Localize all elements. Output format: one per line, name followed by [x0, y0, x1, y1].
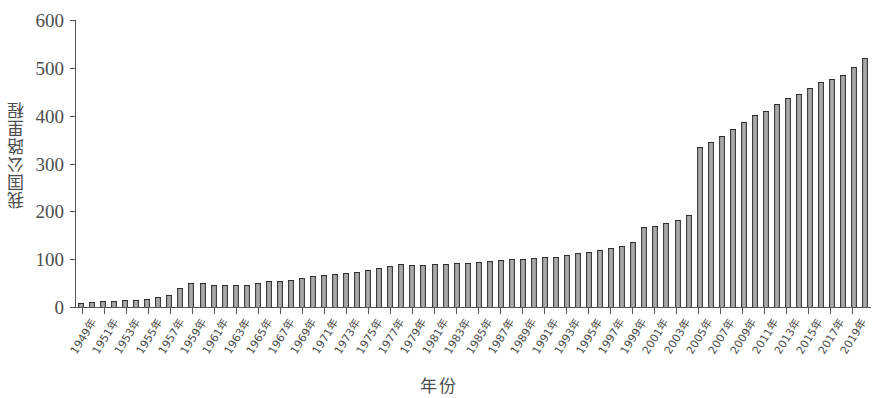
bar [122, 300, 128, 307]
plot-area: 0100200300400500600 [75, 20, 871, 308]
bar [133, 300, 139, 307]
bar [409, 265, 415, 307]
bar [630, 242, 636, 307]
x-axis-tick [764, 307, 765, 314]
bar [575, 253, 581, 307]
x-axis-tick [390, 307, 391, 314]
x-axis-tick [346, 307, 347, 314]
bar [277, 281, 283, 307]
x-axis-tick [214, 307, 215, 314]
bar [564, 255, 570, 307]
bar [652, 226, 658, 307]
bar [686, 215, 692, 307]
x-axis-tick [456, 307, 457, 314]
bar [641, 227, 647, 307]
bar [730, 129, 736, 307]
x-axis-tick-labels: 1949年1951年1953年1955年1957年1959年1961年1963年… [75, 315, 870, 367]
x-axis-tick [676, 307, 677, 314]
bar [222, 285, 228, 307]
bar [619, 246, 625, 307]
x-axis-tick [808, 307, 809, 314]
bar [465, 263, 471, 307]
x-axis-tick [830, 307, 831, 314]
x-axis-tick [170, 307, 171, 314]
x-axis-tick [82, 307, 83, 314]
bar [498, 260, 504, 307]
bar [829, 79, 835, 307]
x-axis-tick [126, 307, 127, 314]
bar [166, 295, 172, 307]
x-axis-tick [632, 307, 633, 314]
x-axis-tick [148, 307, 149, 314]
y-axis-tick-label: 500 [36, 58, 65, 80]
y-axis-tick-label: 600 [36, 10, 65, 32]
y-axis-tick-label: 400 [36, 106, 65, 128]
x-axis-tick [434, 307, 435, 314]
bar [807, 88, 813, 307]
bar [851, 67, 857, 307]
bar [365, 270, 371, 307]
bar [354, 272, 360, 307]
bar [233, 285, 239, 307]
bar [454, 263, 460, 307]
bar [244, 285, 250, 307]
bar [155, 297, 161, 307]
x-axis-tick [720, 307, 721, 314]
x-axis-tick [610, 307, 611, 314]
bar [774, 104, 780, 307]
bar [752, 115, 758, 307]
bar [255, 283, 261, 307]
x-axis-tick [588, 307, 589, 314]
bar [420, 265, 426, 307]
chart-figure: 我国公路里程 0100200300400500600 1949年1951年195… [0, 0, 877, 398]
x-axis-tick [654, 307, 655, 314]
x-axis-tick [368, 307, 369, 314]
bar [321, 275, 327, 307]
x-axis-tick [236, 307, 237, 314]
x-axis-title: 年份 [0, 372, 877, 397]
bar [443, 264, 449, 307]
y-axis-tick-label: 0 [55, 297, 65, 319]
bar [708, 142, 714, 308]
y-axis-tick-label: 300 [36, 154, 65, 176]
y-axis-tick-label: 100 [36, 249, 65, 271]
x-axis-tick [544, 307, 545, 314]
bar [796, 94, 802, 307]
bar [697, 147, 703, 307]
bar [211, 285, 217, 307]
x-axis-tick [412, 307, 413, 314]
bar [200, 283, 206, 307]
bar [387, 266, 393, 307]
bar [288, 280, 294, 307]
bar [597, 250, 603, 307]
bar [188, 283, 194, 307]
bar [542, 257, 548, 307]
bar [719, 136, 725, 307]
bar [509, 259, 515, 307]
bar [476, 262, 482, 307]
x-axis-tick [566, 307, 567, 314]
bar [332, 274, 338, 307]
bar [531, 258, 537, 307]
y-axis-title: 我国公路里程 [2, 0, 30, 310]
bar [144, 299, 150, 307]
bar [840, 75, 846, 307]
x-axis-tick [500, 307, 501, 314]
bar [818, 82, 824, 307]
bar [299, 278, 305, 307]
bar [763, 111, 769, 307]
x-axis-tick [478, 307, 479, 314]
bar [586, 252, 592, 307]
bar [177, 288, 183, 307]
bar-series [76, 20, 871, 307]
x-axis-tick [280, 307, 281, 314]
bar [663, 223, 669, 307]
bar [553, 257, 559, 307]
x-axis-tick [522, 307, 523, 314]
x-axis-tick [302, 307, 303, 314]
bar [785, 98, 791, 307]
bar [266, 281, 272, 307]
bar [376, 268, 382, 307]
bar [608, 248, 614, 307]
bar [487, 261, 493, 307]
